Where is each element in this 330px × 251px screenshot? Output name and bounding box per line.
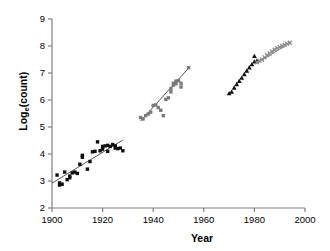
data-point [78, 163, 81, 166]
data-point [179, 85, 182, 88]
x-tick-label: 1900 [41, 214, 62, 225]
x-axis-ticks: 190019201940196019802000 [41, 208, 315, 225]
y-tick-label: 2 [40, 202, 45, 213]
data-point [81, 156, 84, 159]
data-point [179, 82, 182, 85]
data-point [149, 110, 152, 113]
early-period-black-squares [55, 140, 124, 187]
data-markers-group [55, 41, 291, 187]
y-tick-label: 3 [40, 175, 45, 186]
data-point [60, 183, 63, 186]
data-point [174, 82, 177, 85]
data-point [63, 170, 66, 173]
data-point [86, 167, 89, 170]
y-tick-label: 8 [40, 40, 45, 51]
y-axis-ticks: 23456789 [40, 13, 52, 213]
late-period-black-triangles [227, 54, 260, 96]
y-tick-label: 5 [40, 121, 45, 132]
data-point [141, 117, 144, 120]
scatter-chart: 23456789 190019201940196019802000 [0, 0, 330, 251]
trend-lines-group [52, 43, 290, 183]
data-point [121, 149, 124, 152]
x-tick-label: 1980 [244, 214, 265, 225]
y-tick-label: 6 [40, 94, 45, 105]
y-tick-label: 9 [40, 13, 45, 24]
data-point [229, 89, 234, 93]
data-point [76, 172, 79, 175]
x-tick-label: 1960 [193, 214, 214, 225]
x-tick-label: 2000 [294, 214, 315, 225]
plot-axes [52, 19, 305, 208]
x-axis-title: Year [0, 232, 330, 244]
data-point [88, 160, 91, 163]
data-point [162, 114, 165, 117]
x-tick-label: 1920 [92, 214, 113, 225]
x-axis-title-text: Year [191, 232, 213, 244]
data-point [167, 96, 170, 99]
trend-early [52, 140, 123, 183]
data-point [159, 109, 162, 112]
data-point [106, 150, 109, 153]
data-point [96, 140, 99, 143]
data-point [252, 54, 257, 58]
data-point [169, 90, 172, 93]
x-tick-label: 1940 [143, 214, 164, 225]
data-point [187, 66, 190, 69]
y-tick-label: 4 [40, 148, 45, 159]
data-point [169, 87, 172, 90]
data-point [55, 173, 58, 176]
data-point [93, 150, 96, 153]
late-period-gray-crosses [255, 41, 292, 64]
y-tick-label: 7 [40, 67, 45, 78]
data-point [68, 176, 71, 179]
